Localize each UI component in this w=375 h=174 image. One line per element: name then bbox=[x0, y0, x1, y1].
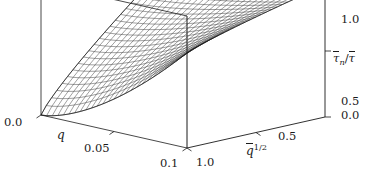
plot-box-back-edges bbox=[41, 0, 325, 148]
z-tick-label-1: 1.0 bbox=[341, 14, 359, 26]
z-axis-numerator-overbar bbox=[333, 51, 339, 52]
z-tick-label-05: 0.5 bbox=[341, 96, 359, 108]
y-tick-label-1: 0.5 bbox=[278, 131, 296, 143]
z-axis-denominator: τ bbox=[349, 53, 355, 65]
y-axis-superscript: 1/2 bbox=[254, 142, 267, 152]
y-axis-symbol: q bbox=[246, 145, 254, 157]
x-tick-label-0: 0.0 bbox=[4, 117, 22, 129]
surface-mesh bbox=[41, 0, 325, 116]
x-axis-label: q bbox=[57, 129, 65, 141]
x-tick-label-2: 0.1 bbox=[160, 158, 178, 170]
x-axis-symbol: q bbox=[57, 128, 65, 142]
y-axis-label: q1/2 bbox=[246, 143, 267, 157]
z-axis-label: τn/τ bbox=[333, 53, 355, 67]
z-tick-label-0: 0.0 bbox=[341, 110, 359, 122]
y-tick-label-0: 1.0 bbox=[196, 157, 214, 169]
z-axis-numerator: τ bbox=[333, 53, 339, 65]
z-axis-denominator-overbar bbox=[349, 51, 355, 52]
y-axis-overbar bbox=[246, 143, 253, 144]
x-tick-label-1: 0.05 bbox=[84, 143, 110, 155]
figure-3d-surface-plot: 0.0 0.05 0.1 q 1.0 0.5 q1/2 1.0 0.5 0.0 … bbox=[0, 0, 375, 174]
surface-plot-canvas bbox=[0, 0, 375, 174]
